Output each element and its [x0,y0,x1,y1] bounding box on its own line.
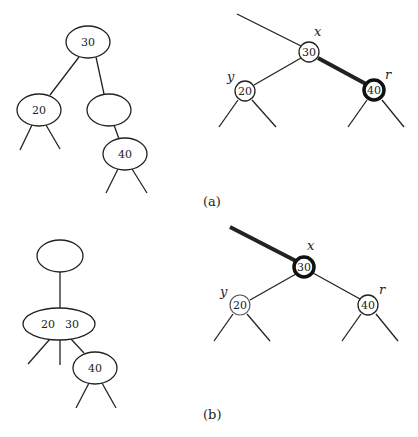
rb-b-r-value: 40 [361,299,375,312]
diagram-canvas: 30 20 40 30 20 40 x y r (a) 20 30 40 [0,0,418,437]
tree-a-child-label: 40 [118,148,132,161]
tree-b-merged-right: 30 [65,318,79,331]
tree-a-left-label: 20 [32,104,46,117]
rb-a-x-value: 30 [302,46,316,59]
tree-b-node-20-30 [23,308,95,340]
caption-a: (a) [203,194,221,209]
rb-a-r-value: 40 [367,84,381,97]
tree-b-node-root-empty [37,240,83,272]
rb-a-y-value: 20 [238,85,252,98]
rb-b-x-value: 30 [297,261,311,274]
tree-a-root-label: 30 [81,36,95,49]
rb-a-x-label: x [314,24,322,39]
caption-b: (b) [203,407,221,422]
rb-a-r-label: r [385,67,392,82]
tree-a-node-empty [87,94,131,126]
tree-b-child-label: 40 [88,362,102,375]
bold-edge-x-r [318,58,366,84]
rb-a-y-label: y [226,69,235,84]
rb-b-r-label: r [379,282,386,297]
rb-b-x-label: x [307,238,315,253]
tree-b-merged-left: 20 [41,318,55,331]
rb-b-y-label: y [219,284,228,299]
rb-b-y-value: 20 [233,299,247,312]
bold-edge-parent-x [230,227,296,261]
